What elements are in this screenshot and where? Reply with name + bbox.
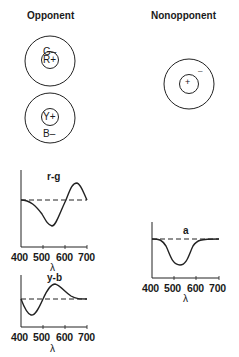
yb-chart-title: y-b (47, 272, 62, 283)
a-tick-600: 600 (187, 282, 204, 294)
yb-tick-600: 600 (56, 331, 73, 343)
rg-tick-700: 700 (78, 251, 95, 263)
yb-tick-400: 400 (11, 331, 28, 343)
yb-chart (21, 275, 87, 329)
a-tick-500: 500 (164, 282, 181, 294)
rg-tick-400: 400 (11, 251, 28, 263)
rg-tick-500: 500 (33, 251, 50, 263)
yb-tick-700: 700 (78, 331, 95, 343)
rg-tick-600: 600 (56, 251, 73, 263)
a-tick-700: 700 (209, 282, 226, 294)
b-minus-label: B– (43, 128, 55, 139)
minus-surround-label: – (198, 66, 202, 75)
a-chart-title: a (183, 225, 189, 236)
a-lambda-label: λ (183, 293, 188, 304)
y-plus-label: Y+ (43, 111, 56, 122)
yb-tick-500: 500 (33, 331, 50, 343)
diagram-graphics (0, 0, 239, 357)
rg-chart-title: r-g (47, 171, 60, 182)
r-plus-label: R+ (43, 54, 56, 65)
plus-center-label: + (185, 77, 190, 87)
yb-lambda-label: λ (50, 343, 55, 354)
a-tick-400: 400 (142, 282, 159, 294)
